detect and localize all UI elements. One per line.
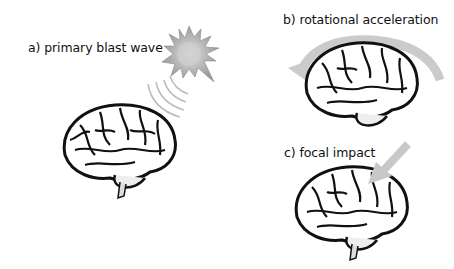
label-rotational-acceleration: b) rotational acceleration — [283, 12, 438, 27]
brain-b-figure — [280, 30, 450, 140]
brain-a-icon — [60, 100, 180, 200]
brain-c-figure — [290, 140, 440, 265]
